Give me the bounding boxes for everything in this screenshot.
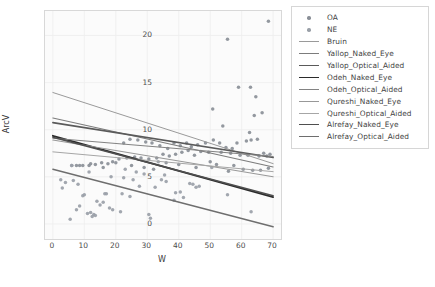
legend-item-label: Odeh_Naked_Eye [327, 73, 392, 82]
legend-key [296, 124, 322, 125]
plot-area [44, 10, 282, 240]
legend-item-label: Odeh_Optical_Aided [327, 85, 403, 94]
x-tick-label: 30 [135, 241, 157, 250]
legend-item[interactable]: NE [296, 24, 424, 36]
legend-item[interactable]: Odeh_Naked_Eye [296, 71, 424, 83]
legend-item[interactable]: Yallop_Naked_Eye [296, 48, 424, 60]
legend-line-icon [299, 89, 319, 90]
legend-key [296, 77, 322, 78]
legend-key [296, 113, 322, 114]
legend-item-label: Alrefay_Optical_Aided [327, 132, 409, 141]
legend-item-label: OA [327, 13, 338, 22]
legend-key [296, 53, 322, 54]
legend-item[interactable]: Qureshi_Optical_Aided [296, 107, 424, 119]
legend-item-label: Bruin [327, 37, 347, 46]
x-tick-label: 70 [261, 241, 283, 250]
legend-key [296, 16, 322, 19]
legend-line-icon [299, 136, 319, 137]
chart-legend: OANEBruinYallop_Naked_EyeYallop_Optical_… [291, 6, 429, 149]
legend-item-label: Qureshi_Naked_Eye [327, 97, 401, 106]
regression-line-alrefay_naked_eye [53, 137, 273, 195]
legend-line-icon [299, 77, 319, 78]
legend-item-label: Qureshi_Optical_Aided [327, 109, 412, 118]
legend-item-label: Alrefay_Naked_Eye [327, 120, 399, 129]
legend-line-icon [299, 113, 319, 114]
x-axis-label: W [158, 255, 166, 264]
legend-line-icon [299, 101, 319, 102]
x-tick-label: 20 [104, 241, 126, 250]
legend-item[interactable]: Yallop_Optical_Aided [296, 60, 424, 72]
legend-line-icon [299, 53, 319, 54]
x-tick-label: 60 [230, 241, 252, 250]
legend-item[interactable]: Qureshi_Naked_Eye [296, 95, 424, 107]
series-layer [45, 11, 281, 239]
legend-marker-icon [307, 28, 310, 31]
regression-line-alrefay_optical_aided [53, 169, 273, 226]
legend-key [296, 28, 322, 31]
regression-line-yallop_naked_eye [53, 118, 273, 167]
legend-key [296, 136, 322, 137]
x-tick-label: 10 [72, 241, 94, 250]
legend-item-label: Yallop_Naked_Eye [327, 49, 394, 58]
legend-marker-icon [307, 16, 310, 19]
legend-key [296, 89, 322, 90]
chart-figure: 05101520 010203040506070 ArcV W OANEBrui… [0, 0, 435, 287]
legend-item[interactable]: Odeh_Optical_Aided [296, 83, 424, 95]
y-tick-label: 0 [128, 218, 152, 227]
legend-key [296, 65, 322, 66]
legend-item[interactable]: Bruin [296, 36, 424, 48]
legend-key [296, 101, 322, 102]
y-axis-label: ArcV [2, 115, 11, 133]
legend-line-icon [299, 65, 319, 66]
legend-key [296, 41, 322, 42]
legend-line-icon [299, 41, 319, 42]
legend-line-icon [299, 124, 319, 125]
legend-item-label: Yallop_Optical_Aided [327, 61, 404, 70]
x-tick-label: 50 [198, 241, 220, 250]
y-tick-label: 15 [128, 77, 152, 86]
legend-item[interactable]: Alrefay_Naked_Eye [296, 119, 424, 131]
x-tick-label: 40 [167, 241, 189, 250]
y-tick-label: 20 [128, 30, 152, 39]
x-tick-label: 0 [41, 241, 63, 250]
legend-item[interactable]: Alrefay_Optical_Aided [296, 131, 424, 143]
y-tick-label: 10 [128, 124, 152, 133]
y-tick-label: 5 [128, 171, 152, 180]
legend-item-label: NE [327, 25, 337, 34]
legend-item[interactable]: OA [296, 12, 424, 24]
